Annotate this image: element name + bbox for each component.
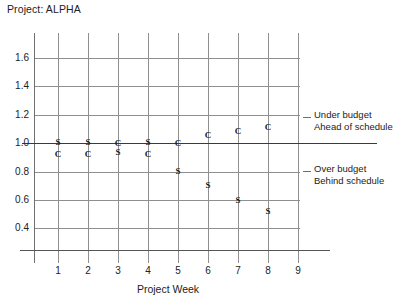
x-tick-label: 3: [111, 265, 125, 276]
data-point-spi: S: [262, 207, 274, 216]
data-point-cpi: C: [262, 123, 274, 132]
data-point-cpi: C: [232, 127, 244, 136]
x-tick-label: 9: [291, 265, 305, 276]
data-point-cpi: C: [142, 150, 154, 159]
data-point-cpi: C: [112, 139, 124, 148]
data-point-spi: S: [112, 148, 124, 157]
y-tick-label: 1.0: [3, 137, 29, 148]
data-point-cpi: C: [172, 139, 184, 148]
data-point-spi: S: [202, 181, 214, 190]
annotation-above-line1: Under budget: [314, 109, 393, 121]
y-tick-label: 0.8: [3, 166, 29, 177]
x-axis-title: Project Week: [108, 283, 228, 295]
chart-container: Project: ALPHA: [0, 0, 395, 299]
y-tick-label: 0.4: [3, 222, 29, 233]
data-point-spi: S: [232, 196, 244, 205]
y-tick-label: 1.6: [3, 52, 29, 63]
x-tick-label: 6: [201, 265, 215, 276]
data-point-spi: S: [142, 138, 154, 147]
data-point-spi: S: [172, 167, 184, 176]
data-point-spi: S: [52, 138, 64, 147]
x-tick-label: 5: [171, 265, 185, 276]
data-point-cpi: C: [202, 131, 214, 140]
x-tick-label: 2: [81, 265, 95, 276]
annotation-below-baseline: Over budget Behind schedule: [314, 163, 384, 186]
annotation-below-line1: Over budget: [314, 163, 384, 175]
annotation-below-line2: Behind schedule: [314, 175, 384, 187]
x-tick-label: 4: [141, 265, 155, 276]
y-tick-label: 0.6: [3, 194, 29, 205]
x-tick-label: 1: [51, 265, 65, 276]
annotation-above-baseline: Under budget Ahead of schedule: [314, 109, 393, 132]
annotation-above-line2: Ahead of schedule: [314, 121, 393, 133]
y-tick-label: 1.4: [3, 80, 29, 91]
data-point-cpi: C: [82, 150, 94, 159]
data-point-spi: S: [82, 138, 94, 147]
x-tick-label: 7: [231, 265, 245, 276]
x-tick-label: 8: [261, 265, 275, 276]
y-tick-label: 1.2: [3, 109, 29, 120]
data-point-cpi: C: [52, 150, 64, 159]
